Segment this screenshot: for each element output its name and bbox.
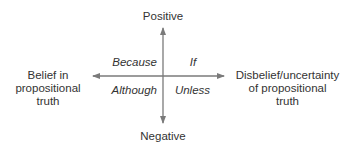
- label-belief-line3: truth: [8, 95, 88, 108]
- label-disbelief: Disbelief/uncertainty of propositional t…: [230, 69, 345, 108]
- label-belief: Belief in propositional truth: [8, 69, 88, 108]
- label-belief-line2: propositional: [8, 82, 88, 95]
- quadrant-although: Although: [100, 84, 157, 97]
- quadrant-if: If: [183, 56, 203, 69]
- label-disbelief-line2: of propositional: [230, 82, 345, 95]
- label-disbelief-line1: Disbelief/uncertainty: [230, 69, 345, 82]
- quadrant-unless: Unless: [170, 84, 215, 97]
- label-belief-line1: Belief in: [8, 69, 88, 82]
- quadrant-because: Because: [105, 56, 157, 69]
- label-negative: Negative: [133, 130, 193, 143]
- label-disbelief-line3: truth: [230, 95, 345, 108]
- label-positive: Positive: [138, 10, 188, 23]
